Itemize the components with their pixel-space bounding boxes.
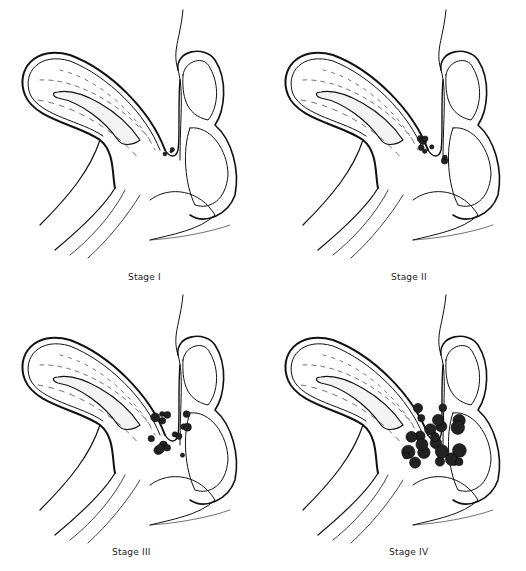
lesion-mark	[439, 404, 447, 412]
lesion-mark	[148, 435, 154, 441]
panel-stage-1: Stage I	[0, 0, 263, 285]
lesion-mark	[455, 458, 463, 466]
stage-4-label: Stage IV	[389, 547, 428, 557]
panel-stage-2: Stage II	[263, 0, 526, 285]
lesion-mark	[423, 149, 427, 153]
stage-3-label: Stage III	[112, 547, 151, 557]
panel-stage-4: Stage IV	[263, 285, 526, 570]
lesion-mark	[413, 403, 422, 412]
lesion-mark	[180, 453, 184, 457]
lesion-mark	[416, 439, 428, 451]
uterus-illustration-stage-4	[263, 285, 526, 545]
lesion-mark	[170, 147, 174, 151]
lesion-mark	[403, 452, 410, 459]
lesion-mark	[163, 152, 167, 156]
lesion-mark	[183, 423, 191, 431]
lesion-mark	[435, 445, 448, 458]
panel-stage-3: Stage III	[0, 285, 263, 570]
lesion-mark	[410, 457, 421, 468]
lesion-mark	[422, 136, 428, 142]
lesion-mark	[430, 145, 434, 149]
uterus-illustration-stage-2	[263, 0, 526, 260]
lesion-mark	[451, 421, 465, 435]
uterus-illustration-stage-3	[0, 285, 263, 545]
lesion-mark	[164, 445, 171, 452]
lesion-mark	[453, 444, 467, 458]
stage-2-label: Stage II	[391, 272, 427, 282]
lesion-mark	[443, 155, 448, 160]
lesion-mark	[183, 411, 190, 418]
lesion-mark	[432, 414, 444, 426]
lesion-mark	[156, 444, 165, 453]
lesion-mark	[159, 418, 166, 425]
lesion-mark	[406, 431, 417, 442]
lesion-mark	[176, 433, 182, 439]
lesion-mark	[430, 433, 439, 442]
uterus-illustration-stage-1	[0, 0, 263, 260]
stage-1-label: Stage I	[128, 272, 161, 282]
lesion-mark	[151, 413, 160, 422]
lesion-mark	[164, 412, 171, 419]
lesion-mark	[418, 415, 425, 422]
